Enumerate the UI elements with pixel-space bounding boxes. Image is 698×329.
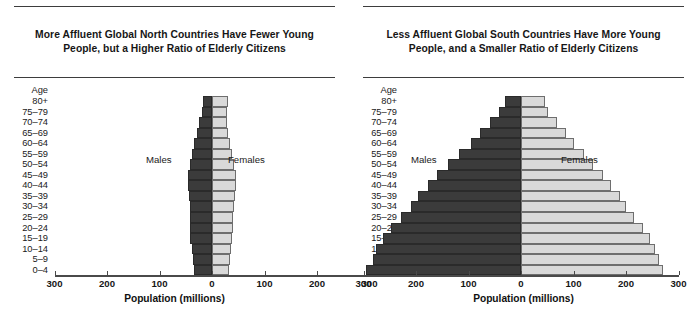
age-axis-header: Age bbox=[4, 85, 48, 95]
pyramid-row bbox=[0, 201, 349, 212]
bar-female bbox=[521, 107, 548, 118]
bar-rows-left bbox=[0, 96, 349, 275]
pyramid-row bbox=[0, 265, 349, 276]
bar-female bbox=[521, 254, 659, 265]
x-axis-tick bbox=[364, 271, 365, 275]
females-legend-label-left: Females bbox=[228, 154, 265, 165]
bar-female bbox=[212, 212, 233, 223]
page-title: Less Affluent Global South Countries Hav… bbox=[363, 28, 684, 56]
x-axis-tick bbox=[521, 271, 522, 275]
bar-female bbox=[521, 191, 620, 202]
bar-male bbox=[383, 233, 521, 244]
pyramid-row bbox=[0, 138, 349, 149]
x-axis-title-left: Population (millions) bbox=[0, 293, 349, 304]
pyramid-row bbox=[0, 180, 349, 191]
panel-global-south: Less Affluent Global South Countries Hav… bbox=[349, 0, 698, 329]
bar-male bbox=[373, 254, 521, 265]
bar-male bbox=[490, 117, 522, 128]
bar-female bbox=[521, 265, 663, 276]
x-axis-title-right: Population (millions) bbox=[349, 293, 698, 304]
pyramid-row bbox=[0, 254, 349, 265]
bar-female bbox=[521, 244, 655, 255]
bar-female bbox=[521, 117, 557, 128]
x-axis-tick-label: 200 bbox=[396, 278, 436, 289]
x-axis-tick bbox=[55, 271, 56, 275]
x-axis-tick bbox=[574, 271, 575, 275]
pyramid-row bbox=[0, 149, 349, 160]
bar-male bbox=[203, 96, 212, 107]
x-axis-tick-label: 200 bbox=[87, 278, 127, 289]
pyramid-row bbox=[349, 128, 698, 139]
pyramid-row bbox=[349, 201, 698, 212]
bar-male bbox=[428, 180, 521, 191]
bar-female bbox=[521, 128, 566, 139]
x-axis-tick bbox=[107, 271, 108, 275]
bar-male bbox=[401, 212, 521, 223]
bar-female bbox=[212, 223, 233, 234]
bar-male bbox=[193, 254, 212, 265]
bar-male bbox=[499, 107, 521, 118]
bar-female bbox=[212, 233, 232, 244]
bar-female bbox=[212, 265, 229, 276]
bar-male bbox=[448, 159, 522, 170]
pyramid-row bbox=[0, 96, 349, 107]
pyramid-row bbox=[349, 244, 698, 255]
bar-male bbox=[190, 223, 212, 234]
bar-female bbox=[521, 212, 634, 223]
bar-male bbox=[192, 149, 212, 160]
x-axis-tick-label: 0 bbox=[192, 278, 232, 289]
page-title: More Affluent Global North Countries Hav… bbox=[14, 28, 335, 56]
chart-global-south: Age 80+75–7970–7465–6960–6455–5950–5445–… bbox=[349, 84, 698, 329]
bar-female bbox=[212, 201, 234, 212]
pyramid-row bbox=[0, 244, 349, 255]
x-axis-tick-label: 100 bbox=[449, 278, 489, 289]
bar-male bbox=[480, 128, 521, 139]
bar-male bbox=[189, 191, 212, 202]
pyramid-row bbox=[349, 159, 698, 170]
pyramid-row bbox=[349, 265, 698, 276]
x-axis-tick-label: 300 bbox=[659, 278, 698, 289]
bar-male bbox=[505, 96, 521, 107]
chart-global-north: Age 80+75–7970–7465–6960–6455–5950–5445–… bbox=[0, 84, 349, 329]
pyramid-row bbox=[349, 180, 698, 191]
x-axis-tick bbox=[212, 271, 213, 275]
pyramid-row bbox=[349, 149, 698, 160]
bar-male bbox=[194, 138, 212, 149]
bar-male bbox=[411, 201, 521, 212]
bar-female bbox=[212, 96, 228, 107]
bar-female bbox=[212, 170, 236, 181]
bar-male bbox=[190, 233, 212, 244]
bar-male bbox=[190, 201, 212, 212]
population-pyramid-figure: More Affluent Global North Countries Hav… bbox=[0, 0, 698, 329]
bar-male bbox=[190, 212, 212, 223]
x-axis-tick-label: 200 bbox=[297, 278, 337, 289]
bar-female bbox=[212, 117, 227, 128]
pyramid-row bbox=[349, 233, 698, 244]
pyramid-row bbox=[349, 170, 698, 181]
pyramid-row bbox=[0, 159, 349, 170]
bar-female bbox=[521, 223, 643, 234]
bar-female bbox=[521, 96, 545, 107]
bar-female bbox=[212, 191, 235, 202]
x-axis-tick bbox=[317, 271, 318, 275]
x-axis-tick bbox=[416, 271, 417, 275]
bar-male bbox=[418, 191, 521, 202]
bar-male bbox=[366, 265, 521, 276]
pyramid-row bbox=[0, 233, 349, 244]
bar-female bbox=[212, 107, 227, 118]
bar-male bbox=[391, 223, 521, 234]
x-axis-tick bbox=[265, 271, 266, 275]
x-axis-tick-label: 300 bbox=[35, 278, 75, 289]
panel-title-block-left: More Affluent Global North Countries Hav… bbox=[14, 6, 335, 78]
x-axis-tick-label: 100 bbox=[140, 278, 180, 289]
panel-global-north: More Affluent Global North Countries Hav… bbox=[0, 0, 349, 329]
pyramid-row bbox=[0, 107, 349, 118]
x-axis-tick bbox=[469, 271, 470, 275]
x-axis-tick-label: 100 bbox=[554, 278, 594, 289]
males-legend-label-right: Males bbox=[411, 154, 437, 165]
bar-male bbox=[459, 149, 521, 160]
pyramid-row bbox=[0, 212, 349, 223]
x-axis-tick bbox=[160, 271, 161, 275]
bar-rows-right bbox=[349, 96, 698, 275]
bar-male bbox=[202, 107, 213, 118]
